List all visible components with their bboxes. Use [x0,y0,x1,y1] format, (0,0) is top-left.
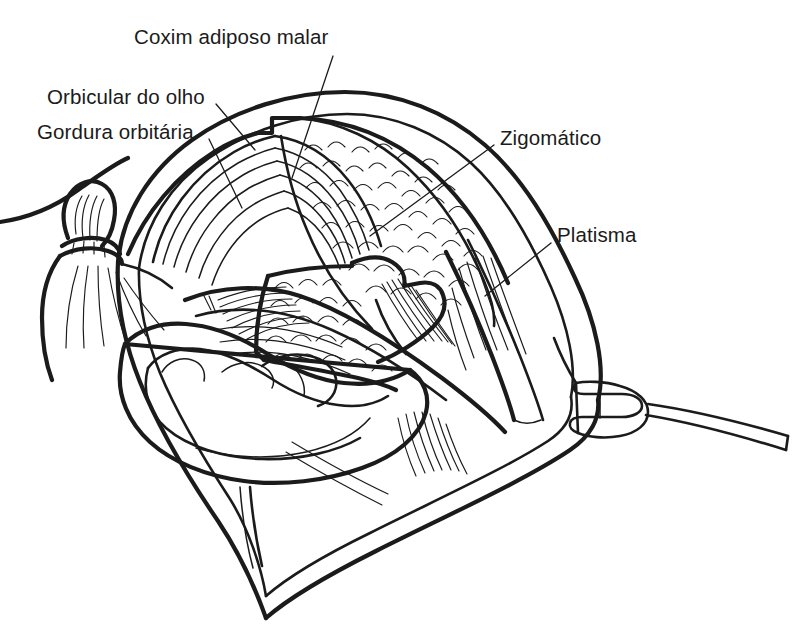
flap-fan-folds [66,266,164,348]
label-coxim-adiposo-malar: Coxim adiposo malar [134,26,328,49]
label-platisma: Platisma [557,224,636,247]
label-gordura-orbitaria: Gordura orbitária [37,121,194,144]
smas-sheet [185,288,505,432]
orbicularis-oculi [153,136,381,339]
label-orbicular-do-olho: Orbicular do olho [47,86,205,109]
label-zigomatico: Zigomático [500,127,601,150]
preauricular-striations [398,412,467,476]
figure-canvas: .ln { fill:none; stroke:#1b1b1b; stroke-… [0,0,801,642]
